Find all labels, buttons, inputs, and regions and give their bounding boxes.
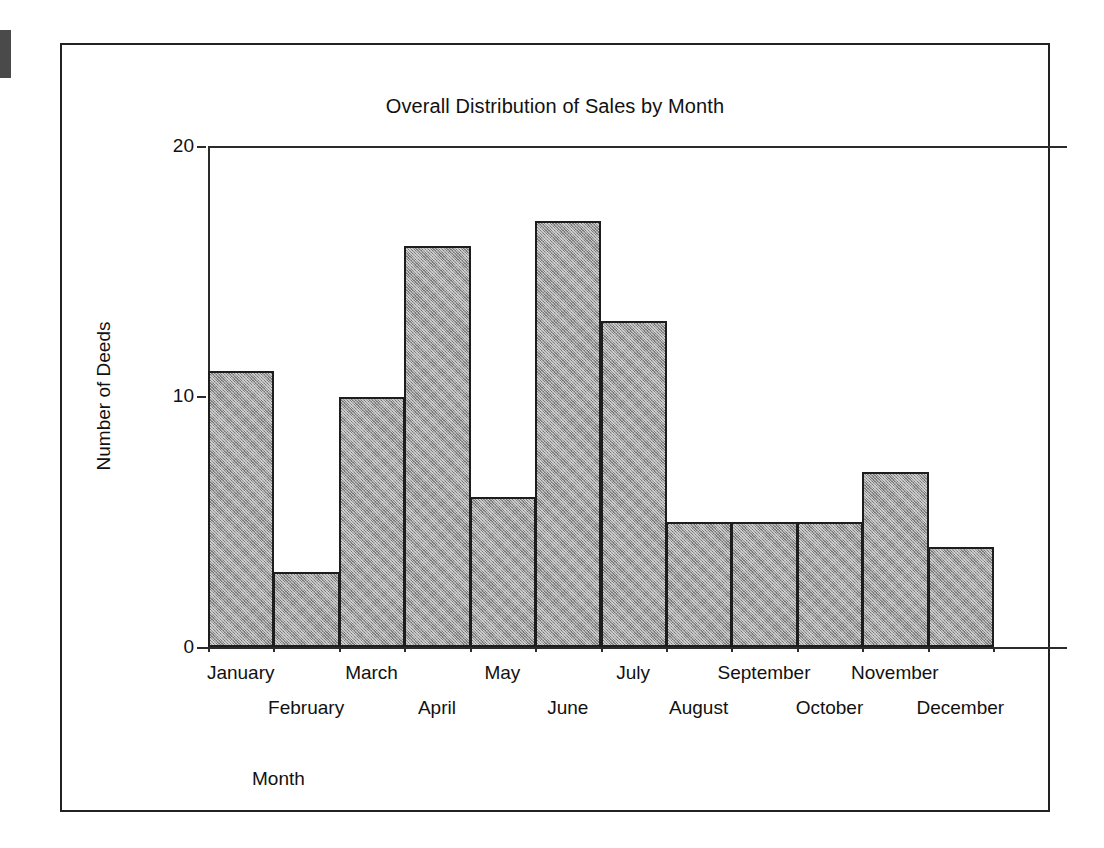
x-tick-mark — [601, 647, 603, 652]
bar-series — [208, 146, 993, 647]
x-tick-mark — [404, 647, 406, 652]
x-axis-label: June — [547, 697, 588, 719]
x-tick-mark — [731, 647, 733, 652]
x-axis-label: October — [796, 697, 864, 719]
x-tick-mark — [797, 647, 799, 652]
x-tick-mark — [470, 647, 472, 652]
x-axis-label: November — [851, 662, 939, 684]
x-tick-mark — [666, 647, 668, 652]
y-tick-label: 20 — [173, 135, 194, 157]
x-tick-mark — [993, 647, 995, 652]
x-axis-label: February — [268, 697, 344, 719]
bar — [208, 371, 274, 647]
x-axis-label: August — [669, 697, 728, 719]
chart-frame: Overall Distribution of Sales by Month 2… — [60, 43, 1050, 812]
y-tick-mark — [197, 647, 206, 649]
bar — [666, 522, 732, 647]
bar — [339, 397, 405, 648]
bar — [862, 472, 928, 647]
x-tick-mark — [273, 647, 275, 652]
bar — [404, 246, 470, 647]
y-tick-label: 10 — [173, 385, 194, 407]
x-axis-label: April — [418, 697, 456, 719]
x-axis-label: March — [345, 662, 398, 684]
bar — [470, 497, 536, 647]
bar — [928, 547, 994, 647]
x-tick-mark — [862, 647, 864, 652]
bar — [797, 522, 863, 647]
x-axis-label: May — [484, 662, 520, 684]
y-tick-label: 0 — [183, 636, 194, 658]
bar — [601, 321, 667, 647]
x-axis-label: July — [616, 662, 650, 684]
bar — [731, 522, 797, 647]
x-tick-mark — [208, 647, 210, 652]
y-tick-mark — [197, 396, 206, 398]
plot-area: 20 10 0 Number of Deeds JanuaryFebruaryM… — [208, 146, 1067, 647]
chart-title: Overall Distribution of Sales by Month — [62, 95, 1048, 118]
y-axis-title: Number of Deeds — [93, 322, 115, 471]
x-axis-label: September — [718, 662, 811, 684]
x-tick-mark — [339, 647, 341, 652]
y-tick-mark — [197, 146, 206, 148]
x-tick-mark — [535, 647, 537, 652]
x-axis-label: December — [916, 697, 1004, 719]
bar — [273, 572, 339, 647]
x-axis-title: Month — [252, 768, 305, 790]
x-axis-line — [202, 647, 1067, 649]
x-tick-mark — [928, 647, 930, 652]
scan-edge-artifact — [0, 30, 11, 78]
x-axis-label: January — [207, 662, 275, 684]
bar — [535, 221, 601, 647]
